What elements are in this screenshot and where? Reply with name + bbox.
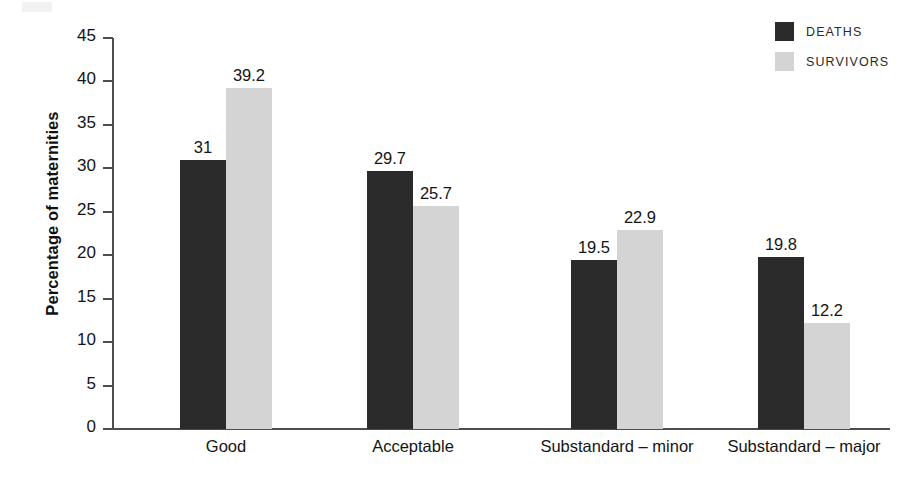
y-tick-0: 0	[103, 428, 113, 430]
y-tick-20: 20	[103, 254, 113, 256]
y-tick-35: 35	[103, 124, 113, 126]
bar-chart: Percentage of maternities 05101520253035…	[0, 0, 916, 480]
bar-survivors-3: 12.2	[804, 323, 850, 429]
y-tick-10: 10	[103, 341, 113, 343]
legend-label-deaths: DEATHS	[806, 25, 862, 39]
bar-survivors-1: 25.7	[413, 206, 459, 429]
bar-deaths-3: 19.8	[758, 257, 804, 429]
legend: DEATHS SURVIVORS	[775, 22, 889, 82]
legend-swatch-survivors-icon	[775, 52, 794, 71]
bar-survivors-0: 39.2	[226, 88, 272, 429]
y-tick-label-15: 15	[77, 287, 96, 307]
y-tick-label-45: 45	[77, 26, 96, 46]
y-tick-label-5: 5	[87, 374, 96, 394]
y-tick-45: 45	[103, 37, 113, 39]
bar-survivors-2: 22.9	[617, 230, 663, 429]
bar-value-label: 19.8	[765, 235, 797, 254]
bar-value-label: 39.2	[233, 66, 265, 85]
y-tick-label-10: 10	[77, 330, 96, 350]
y-tick-label-30: 30	[77, 156, 96, 176]
bar-value-label: 22.9	[624, 208, 656, 227]
legend-item-survivors: SURVIVORS	[775, 52, 889, 71]
y-tick-5: 5	[103, 385, 113, 387]
legend-item-deaths: DEATHS	[775, 22, 889, 41]
bar-value-label: 25.7	[420, 184, 452, 203]
bar-deaths-0: 31	[180, 160, 226, 429]
y-tick-30: 30	[103, 167, 113, 169]
legend-label-survivors: SURVIVORS	[806, 55, 889, 69]
plot-area: 3139.229.725.719.522.919.812.2	[113, 38, 890, 429]
y-tick-15: 15	[103, 298, 113, 300]
x-category-label-0: Good	[136, 437, 316, 456]
y-tick-label-0: 0	[87, 417, 96, 437]
legend-swatch-deaths-icon	[775, 22, 794, 41]
y-tick-25: 25	[103, 211, 113, 213]
bar-value-label: 19.5	[578, 238, 610, 257]
bar-deaths-1: 29.7	[367, 171, 413, 429]
y-tick-label-40: 40	[77, 69, 96, 89]
scan-artifact	[22, 2, 52, 12]
x-category-label-3: Substandard – major	[714, 437, 894, 456]
bar-value-label: 31	[194, 138, 212, 157]
x-category-label-1: Acceptable	[323, 437, 503, 456]
x-category-label-2: Substandard – minor	[527, 437, 707, 456]
y-axis-title: Percentage of maternities	[43, 14, 62, 414]
y-tick-label-20: 20	[77, 243, 96, 263]
y-tick-label-25: 25	[77, 200, 96, 220]
bar-deaths-2: 19.5	[571, 260, 617, 429]
bar-value-label: 29.7	[374, 149, 406, 168]
bar-value-label: 12.2	[811, 301, 843, 320]
y-tick-40: 40	[103, 80, 113, 82]
y-tick-label-35: 35	[77, 113, 96, 133]
